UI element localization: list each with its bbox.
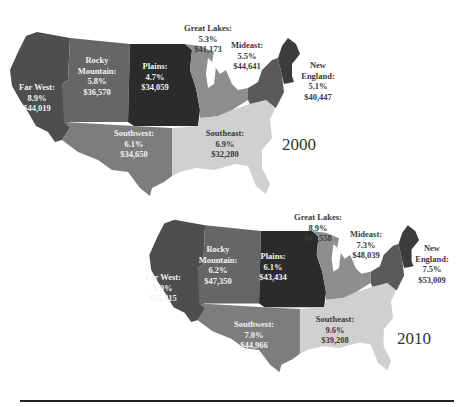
label-southeast-2000: Southeast: 6.9% $32,280 — [206, 128, 244, 160]
label-southwest-2000: Southwest: 6.1% $34,650 — [114, 128, 154, 160]
label-great-lakes-2000: Great Lakes: 5.3% $41,173 — [184, 23, 232, 55]
bottom-rule — [20, 400, 454, 402]
label-new-england-2010: New England: 7.5% $53,009 — [415, 243, 449, 285]
label-southwest-2010: Southwest: 7.0% $44,966 — [234, 319, 274, 351]
label-plains-2010: Plains: 6.1% $43,434 — [259, 251, 287, 283]
year-label-2000: 2000 — [282, 135, 316, 155]
label-plains-2000: Plains: 4.7% $34,059 — [141, 61, 169, 93]
label-rocky-mountain-2000: Rocky Mountain: 5.8% $36,570 — [78, 55, 117, 97]
label-rocky-mountain-2010: Rocky Mountain: 6.2% $47,350 — [199, 244, 238, 286]
label-new-england-2000: New England: 5.1% $40,447 — [301, 60, 335, 102]
label-great-lakes-2010: Great Lakes: 8.9% $47,558 — [294, 212, 342, 244]
year-label-2010: 2010 — [397, 329, 431, 349]
label-mideast-2000: Mideast: 5.5% $44,641 — [231, 40, 263, 72]
label-far-west-2010: Far West: 8.9% $55,415 — [145, 272, 181, 304]
label-southeast-2010: Southeast: 9.6% $39,208 — [316, 314, 354, 346]
label-far-west-2000: Far West: 8.9% $44,019 — [19, 82, 55, 114]
label-mideast-2010: Mideast: 7.3% $48,039 — [350, 229, 382, 261]
